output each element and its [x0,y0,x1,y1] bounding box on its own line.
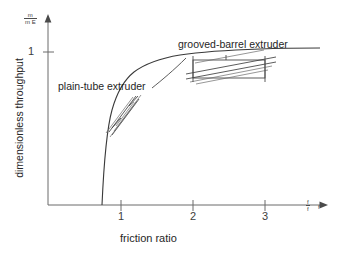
grooved-barrel-extruder-label: grooved-barrel extruder [178,38,288,50]
y-axis-arrow-icon [45,14,52,23]
y-unit-numerator: m [24,12,37,19]
x-axis-title: friction ratio [120,232,177,244]
y-unit-denominator: m E [24,19,37,25]
x-unit-denominator: f [306,206,310,212]
x-axis-arrow-icon [320,202,329,209]
y-axis-title: dimensionless throughput [13,43,25,193]
plain-tube-leader-line [152,58,186,88]
chart-figure: m m E f f f 1 1 2 3 dimensionless throug… [0,0,342,255]
x-tick-label-3: 3 [256,210,274,222]
x-axis-unit-trailing: f [318,204,320,210]
plain-tube-band [106,95,141,137]
plot-canvas [0,0,342,255]
x-tick-label-2: 2 [184,210,202,222]
x-unit-numerator: f [306,199,310,206]
throughput-curve [102,48,320,205]
x-tick-label-1: 1 [112,210,130,222]
plain-tube-extruder-label: plain-tube extruder [58,80,146,92]
y-axis-unit-symbol: m m E [24,12,37,26]
x-axis-unit-symbol: f f [306,199,310,213]
grooved-barrel-band [186,50,276,84]
